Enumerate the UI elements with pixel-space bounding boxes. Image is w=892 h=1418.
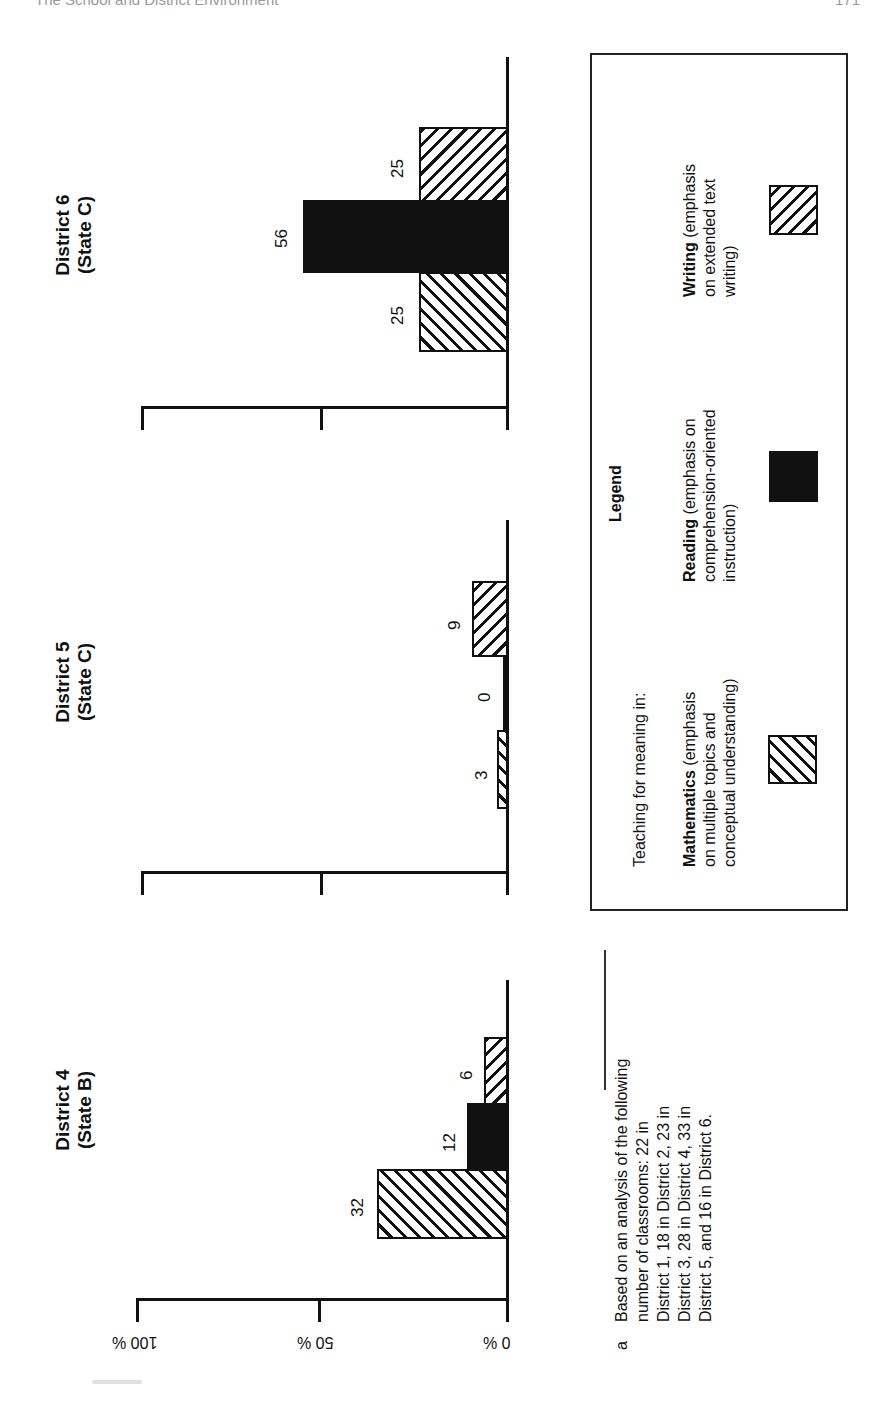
legend-swatch-mathematics <box>768 735 817 784</box>
value-reading: 0 <box>475 693 495 702</box>
district-5-scale-axis <box>141 871 509 874</box>
value-writing: 6 <box>457 1071 477 1080</box>
page-number: 171 <box>835 0 860 8</box>
value-mathematics: 25 <box>388 306 408 325</box>
tick-0 <box>506 871 509 895</box>
bar-reading <box>303 200 508 273</box>
district-4-scale-axis <box>136 1298 509 1301</box>
tick-100 <box>136 1298 139 1322</box>
legend-item-mathematics: Mathematics (emphasis on multiple topics… <box>680 678 740 867</box>
scan-smudge <box>92 1380 142 1384</box>
bar-writing <box>472 581 508 657</box>
legend-title: Legend <box>606 465 626 522</box>
tick-label-100: 100 % <box>112 1333 157 1351</box>
legend-item-writing: Writing (emphasis on extended text writi… <box>680 164 740 297</box>
value-reading: 12 <box>440 1133 460 1152</box>
bar-mathematics <box>497 730 508 809</box>
bar-writing <box>419 127 508 202</box>
bar-mathematics <box>377 1169 508 1239</box>
value-reading: 56 <box>272 229 292 248</box>
legend-swatch-writing <box>769 185 818 235</box>
bar-writing <box>484 1037 508 1105</box>
district-4-title: District 4 (State B) <box>52 1040 96 1180</box>
running-title: The School and District Environment <box>35 0 278 8</box>
tick-100 <box>141 406 144 430</box>
bar-reading <box>503 656 508 730</box>
tick-50 <box>318 1298 321 1322</box>
legend-item-reading: Reading (emphasis on comprehension-orien… <box>680 409 740 582</box>
tick-0 <box>506 1298 509 1322</box>
tick-50 <box>320 871 323 895</box>
district-6-title: District 6 (State C) <box>52 165 96 305</box>
value-writing: 25 <box>388 159 408 178</box>
footnote-rule <box>604 950 606 1090</box>
tick-label-0: 0 % <box>483 1333 511 1351</box>
district-6-scale-axis <box>141 406 509 409</box>
tick-100 <box>141 871 144 895</box>
bar-mathematics <box>419 272 508 352</box>
value-mathematics: 32 <box>348 1198 368 1217</box>
tick-0 <box>506 406 509 430</box>
bar-reading <box>467 1103 508 1171</box>
legend-swatch-reading <box>769 451 818 502</box>
footnote-text: Based on an analysis of the following nu… <box>611 1059 716 1322</box>
value-mathematics: 3 <box>472 771 492 780</box>
legend-intro: Teaching for meaning in: <box>630 693 650 867</box>
value-writing: 9 <box>445 621 465 630</box>
tick-label-50: 50 % <box>297 1333 333 1351</box>
footnote-marker: a <box>611 1341 632 1350</box>
district-5-title: District 5 (State C) <box>52 612 96 752</box>
tick-50 <box>320 406 323 430</box>
